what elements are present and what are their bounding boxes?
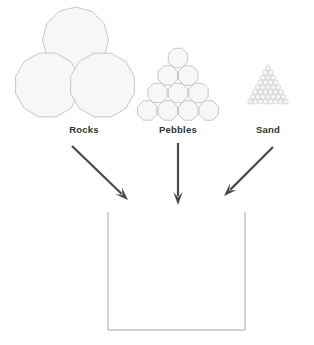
- sand-grain-shape: [271, 94, 276, 99]
- sand-grain-shape: [263, 80, 268, 85]
- rock-shape: [16, 53, 80, 117]
- arrow-shaft: [230, 147, 273, 190]
- sand-grain-shape: [268, 99, 273, 104]
- sand-grain-shape: [260, 75, 265, 80]
- sand-grain-shape: [253, 90, 258, 95]
- label-rocks: Rocks: [69, 124, 99, 135]
- pebble-shape: [168, 83, 187, 102]
- sand-grain-shape: [255, 94, 260, 99]
- rock-shape: [71, 53, 135, 117]
- sand-grain-shape: [258, 80, 263, 85]
- pebble-shape: [179, 101, 198, 120]
- sand-grain-shape: [253, 99, 258, 104]
- sand-grain-shape: [258, 90, 263, 95]
- pebble-shape: [148, 83, 167, 102]
- sand-grain-shape: [263, 70, 268, 75]
- pebbles-pyramid-icon: [138, 48, 219, 120]
- sand-grain-shape: [266, 75, 271, 80]
- sand-grain-shape: [283, 99, 288, 104]
- sand-grain-shape: [255, 85, 260, 90]
- sand-grain-shape: [266, 66, 271, 71]
- pebble-shape: [158, 66, 177, 85]
- sand-grain-shape: [273, 80, 278, 85]
- sand-grain-shape: [278, 99, 283, 104]
- sand-grain-shape: [268, 80, 273, 85]
- container-box: [108, 212, 245, 330]
- arrow-shaft: [72, 146, 122, 194]
- arrows-group: [72, 143, 273, 205]
- label-pebbles: Pebbles: [159, 124, 197, 135]
- pebble-shape: [168, 48, 187, 67]
- sand-grain-shape: [266, 85, 271, 90]
- sand-grain-shape: [250, 94, 255, 99]
- arrow-sand-to-container: [224, 147, 273, 196]
- sand-grain-shape: [268, 90, 273, 95]
- label-sand: Sand: [256, 124, 280, 135]
- sand-grain-shape: [278, 90, 283, 95]
- sand-grain-shape: [276, 85, 281, 90]
- sand-grain-shape: [276, 94, 281, 99]
- sand-grain-shape: [263, 99, 268, 104]
- sand-grain-shape: [281, 94, 286, 99]
- sand-grain-shape: [273, 90, 278, 95]
- arrow-rocks-to-container: [72, 146, 128, 200]
- sand-grain-triangle-icon: [248, 66, 289, 105]
- sand-grain-shape: [273, 99, 278, 104]
- diagram-canvas: Rocks Pebbles Sand: [0, 0, 314, 345]
- pebble-shape: [158, 101, 177, 120]
- arrow-pebbles-to-container: [173, 143, 182, 205]
- rocks-cluster-icon: [16, 7, 135, 117]
- container-outline: [108, 212, 245, 330]
- pebble-shape: [199, 101, 218, 120]
- sand-grain-shape: [258, 99, 263, 104]
- sand-grain-shape: [248, 99, 253, 104]
- sand-grain-shape: [260, 94, 265, 99]
- sand-grain-shape: [266, 94, 271, 99]
- sand-grain-shape: [263, 90, 268, 95]
- sand-grain-shape: [268, 70, 273, 75]
- sand-grain-shape: [260, 85, 265, 90]
- pebble-shape: [138, 101, 157, 120]
- pebble-shape: [179, 66, 198, 85]
- sand-grain-shape: [271, 75, 276, 80]
- sand-grain-shape: [271, 85, 276, 90]
- pebble-shape: [189, 83, 208, 102]
- rocks-pebbles-sand-diagram: Rocks Pebbles Sand: [0, 0, 314, 345]
